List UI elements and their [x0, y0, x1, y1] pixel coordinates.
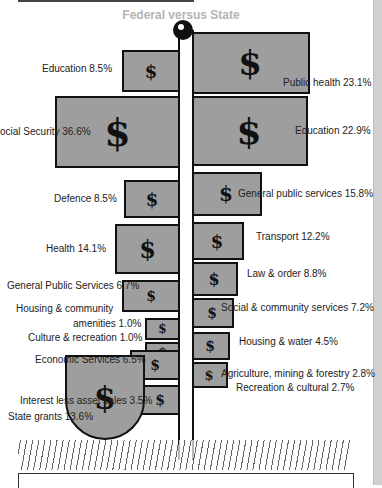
ground-hatching: [18, 440, 350, 470]
label-state-education: Education 22.9%: [295, 125, 371, 137]
dollar-icon: $: [150, 357, 160, 373]
flag-federal-education: $: [122, 50, 180, 92]
label-state-public-health: Public health 23.1%: [283, 77, 371, 89]
label-state-law-order: Law & order 8.8%: [247, 268, 327, 280]
label-federal-economic: Economic Services 6.5%: [35, 354, 146, 366]
label-federal-health: Health 14.1%: [46, 243, 106, 255]
dollar-icon: $: [145, 61, 158, 82]
dollar-icon: $: [211, 231, 224, 252]
label-federal-interest: Interest less asset sales 3.5%: [20, 395, 152, 407]
flag-state-law-order: $: [190, 262, 238, 296]
dollar-icon: $: [139, 235, 156, 264]
label-state-social-community: Social & community services 7.2%: [221, 302, 374, 314]
flag-federal-health: $: [115, 224, 180, 274]
dollar-icon: $: [219, 182, 233, 206]
dollar-icon: $: [207, 305, 217, 321]
label-state-general-public-services: General public services 15.8%: [238, 188, 373, 200]
caption-box: [18, 473, 354, 488]
label-federal-defence: Defence 8.5%: [54, 193, 117, 205]
flag-state-transport: $: [190, 222, 244, 260]
dollar-icon: $: [238, 43, 262, 83]
label-state-housing-water: Housing & water 4.5%: [239, 336, 338, 348]
dollar-icon: $: [146, 288, 156, 304]
label-federal-social-security: ocial Security 36.6%: [0, 126, 91, 138]
top-rule: [18, 0, 194, 2]
scrollbar[interactable]: [373, 0, 382, 485]
label-federal-housing-a: Housing & community: [16, 303, 113, 315]
dollar-icon: $: [146, 189, 159, 210]
label-federal-state-grants: State grants 13.6%: [8, 411, 93, 423]
dollar-icon: $: [155, 392, 165, 408]
flag-state-education: $: [190, 96, 308, 166]
dollar-icon: $: [204, 368, 213, 383]
label-federal-education: Education 8.5%: [42, 63, 112, 75]
dollar-icon: $: [158, 322, 166, 336]
dollar-icon: $: [205, 338, 215, 354]
flag-state-housing-water: $: [190, 332, 230, 360]
label-state-agriculture: Agriculture, mining & forestry 2.8%: [221, 368, 375, 380]
dollar-icon: $: [208, 270, 219, 289]
dollar-icon: $: [236, 110, 261, 152]
pole-knob: [173, 20, 193, 40]
dollar-icon: $: [104, 110, 130, 155]
flag-federal-defence: $: [124, 180, 180, 218]
label-federal-general-public-services: General Public Services 6.7%: [7, 280, 139, 292]
label-state-transport: Transport 12.2%: [256, 231, 330, 243]
flag-federal-housing: $: [145, 318, 180, 340]
flag-pole: [178, 30, 194, 460]
label-state-recreation: Recreation & cultural 2.7%: [236, 382, 354, 394]
label-federal-culture: Culture & recreation 1.0%: [28, 332, 143, 344]
label-federal-housing-b: amenities 1.0%: [73, 318, 141, 330]
